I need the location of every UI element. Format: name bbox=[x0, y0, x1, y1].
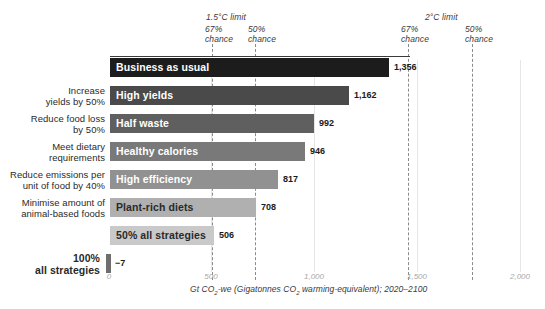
chance-pct: 50% bbox=[248, 24, 265, 34]
x-axis-caption: Gt CO2-we (Gigatonnes CO2 warming-equiva… bbox=[190, 284, 427, 296]
side-line-1: Reduce emissions per bbox=[10, 169, 105, 180]
chance-word: chance bbox=[248, 34, 276, 44]
bar-row: Plant-rich diets Minimise amount of anim… bbox=[0, 198, 545, 217]
side-line-1: 100% bbox=[73, 252, 100, 264]
side-line-1: Reduce food loss bbox=[31, 113, 105, 124]
side-line-2: animal-based foods bbox=[21, 208, 105, 219]
chance-label-2c-50: 50% chance bbox=[465, 24, 493, 44]
caption-mid: -we (Gigatonnes CO bbox=[218, 284, 296, 294]
bar-side-label: Reduce emissions per unit of food by 40% bbox=[10, 169, 110, 191]
side-line-1: Minimise amount of bbox=[22, 197, 105, 208]
bar-label: Healthy calories bbox=[116, 142, 198, 161]
bar-half-waste[interactable]: Half waste Reduce food loss by 50% bbox=[110, 114, 314, 133]
xtick-label-1500: 1,500 bbox=[407, 272, 427, 281]
bar-value: 506 bbox=[219, 226, 234, 245]
bar-label: 50% all strategies bbox=[116, 226, 206, 245]
chance-label-1-5c-67: 67% chance bbox=[205, 24, 233, 44]
bar-row: High efficiency Reduce emissions per uni… bbox=[0, 170, 545, 189]
chance-label-1-5c-50: 50% chance bbox=[248, 24, 276, 44]
xtick-label-1000: 1,000 bbox=[304, 272, 324, 281]
side-line-1: Meet dietary bbox=[52, 141, 105, 152]
xtick-label-0: 0 bbox=[107, 272, 111, 281]
bar-label: Business as usual bbox=[116, 58, 209, 77]
chance-pct: 50% bbox=[465, 24, 482, 34]
bar-side-label: Meet dietary requirements bbox=[49, 141, 110, 163]
bar-label: High efficiency bbox=[116, 170, 192, 189]
chance-pct: 67% bbox=[401, 24, 418, 34]
limit-title-1-5c: 1.5°C limit bbox=[206, 12, 246, 22]
bar-value: 946 bbox=[310, 142, 325, 161]
bar-side-label: Increase yields by 50% bbox=[46, 85, 110, 107]
xtick-label-500: 500 bbox=[204, 272, 217, 281]
bar-row: Business as usual 1,356 bbox=[0, 58, 545, 77]
chance-label-2c-67: 67% chance bbox=[401, 24, 429, 44]
bar-50-percent-all-strategies[interactable]: 50% all strategies bbox=[110, 226, 214, 245]
side-line-1: Increase bbox=[68, 85, 105, 96]
xtick-label-2000: 2,000 bbox=[510, 272, 530, 281]
bar-high-efficiency[interactable]: High efficiency Reduce emissions per uni… bbox=[110, 170, 278, 189]
bar-side-label: Minimise amount of animal-based foods bbox=[21, 197, 110, 219]
side-line-2: yields by 50% bbox=[46, 96, 105, 107]
bar-healthy-calories[interactable]: Healthy calories Meet dietary requiremen… bbox=[110, 142, 305, 161]
side-line-2: by 50% bbox=[73, 124, 105, 135]
bar-side-label: 100% all strategies bbox=[35, 252, 106, 276]
bar-row: 50% all strategies 506 bbox=[0, 226, 545, 245]
bar-row: Half waste Reduce food loss by 50% 992 bbox=[0, 114, 545, 133]
side-line-2: all strategies bbox=[35, 264, 100, 276]
bar-row: 100% all strategies −7 bbox=[0, 254, 545, 273]
bar-label: High yields bbox=[116, 86, 173, 105]
axis-top-rule bbox=[110, 56, 410, 57]
bar-row: Healthy calories Meet dietary requiremen… bbox=[0, 142, 545, 161]
chance-pct: 67% bbox=[205, 24, 222, 34]
side-line-2: requirements bbox=[49, 152, 105, 163]
bar-label: Half waste bbox=[116, 114, 169, 133]
bar-business-as-usual[interactable]: Business as usual bbox=[110, 58, 389, 77]
caption-post: warming-equivalent); 2020–2100 bbox=[300, 284, 428, 294]
bar-value: 708 bbox=[261, 198, 276, 217]
bar-value: −7 bbox=[115, 254, 125, 273]
bar-value: 992 bbox=[319, 114, 334, 133]
chance-word: chance bbox=[401, 34, 429, 44]
caption-pre: Gt CO bbox=[190, 284, 214, 294]
bar-value: 817 bbox=[283, 170, 298, 189]
bar-value: 1,356 bbox=[394, 58, 417, 77]
bar-side-label: Reduce food loss by 50% bbox=[31, 113, 110, 135]
bar-label: Plant-rich diets bbox=[116, 198, 193, 217]
limit-title-2c: 2°C limit bbox=[425, 12, 458, 22]
chance-word: chance bbox=[465, 34, 493, 44]
bar-value: 1,162 bbox=[354, 86, 377, 105]
bar-high-yields[interactable]: High yields Increase yields by 50% bbox=[110, 86, 349, 105]
bar-100-percent-all-strategies[interactable]: 100% all strategies bbox=[106, 254, 111, 273]
bar-plant-rich-diets[interactable]: Plant-rich diets Minimise amount of anim… bbox=[110, 198, 256, 217]
chance-word: chance bbox=[205, 34, 233, 44]
side-line-2: unit of food by 40% bbox=[23, 180, 105, 191]
bar-row: High yields Increase yields by 50% 1,162 bbox=[0, 86, 545, 105]
chart-canvas: 1.5°C limit 2°C limit 67% chance 50% cha… bbox=[0, 0, 545, 309]
